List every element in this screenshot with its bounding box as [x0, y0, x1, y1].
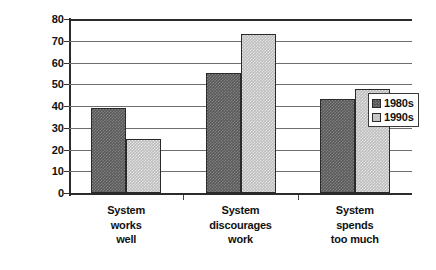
y-axis-tick-mark: [64, 150, 69, 151]
legend-item-1990s: 1990s: [372, 110, 414, 124]
y-axis-tick-label: 0: [38, 188, 64, 199]
y-axis-tick-mark: [64, 106, 69, 107]
chart-legend: 1980s1990s: [368, 93, 419, 127]
legend-label: 1980s: [384, 97, 414, 109]
bar-1980s-1: [91, 108, 126, 193]
y-axis-tick-label: 30: [38, 122, 64, 133]
bar-group: [91, 19, 161, 193]
x-axis-tick-mark: [183, 195, 184, 200]
y-axis-line: [69, 18, 71, 196]
y-axis-tick-label: 80: [38, 14, 64, 25]
y-axis-tick-mark: [64, 128, 69, 129]
y-axis-tick-mark: [64, 84, 69, 85]
y-axis-tick-mark: [64, 63, 69, 64]
y-axis-tick-label: 60: [38, 57, 64, 68]
legend-label: 1990s: [384, 111, 414, 123]
legend-swatch-icon: [372, 99, 381, 108]
bar-1980s-2: [206, 73, 241, 193]
y-axis-tick-label: 50: [38, 79, 64, 90]
y-axis-tick-label: 40: [38, 101, 64, 112]
y-axis-tick-mark: [64, 19, 69, 20]
y-axis-tick-label: 70: [38, 35, 64, 46]
y-axis-tick-mark: [64, 41, 69, 42]
bar-1990s-1: [126, 139, 161, 193]
x-axis-category-label: Systemdiscourageswork: [183, 203, 297, 247]
x-axis-category-label: Systemworkswell: [69, 203, 183, 247]
legend-swatch-icon: [372, 113, 381, 122]
y-axis-tick-mark: [64, 171, 69, 172]
x-axis-line: [69, 193, 412, 195]
y-axis-tick-mark: [64, 193, 69, 194]
x-axis-tick-mark: [298, 195, 299, 200]
legend-item-1980s: 1980s: [372, 96, 414, 110]
bar-group: [206, 19, 276, 193]
y-axis-tick-labels: 80706050403020100: [38, 19, 64, 195]
y-axis-tick-label: 20: [38, 144, 64, 155]
plot-area: [69, 19, 412, 195]
bar-1980s-3: [320, 99, 355, 193]
chart-figure: Percent in agreement 80706050403020100 1…: [0, 0, 436, 270]
bar-1990s-2: [241, 34, 276, 193]
y-axis-tick-label: 10: [38, 166, 64, 177]
x-axis-category-label: Systemspendstoo much: [298, 203, 412, 247]
